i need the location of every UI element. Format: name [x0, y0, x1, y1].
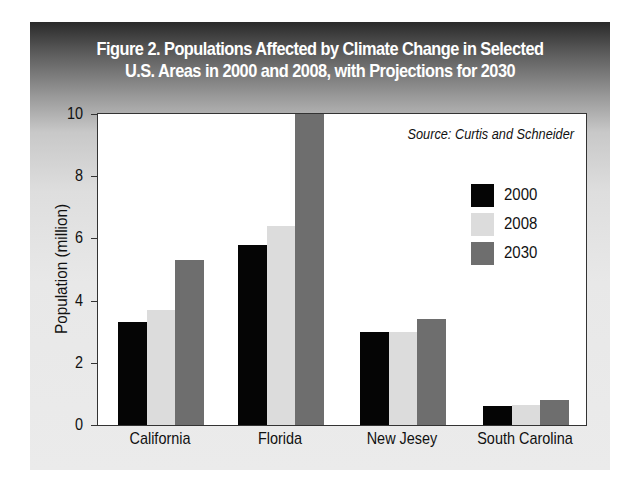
- bar-new-jesey-2000: [360, 332, 389, 425]
- x-label-south-carolina: South Carolina: [477, 429, 573, 449]
- bar-california-2008: [147, 310, 176, 425]
- y-tick-2: 2: [91, 363, 97, 364]
- x-label-new-jersey: New Jesey: [367, 429, 438, 449]
- y-axis-title: Population (million): [52, 204, 72, 334]
- bar-florida-2008: [267, 226, 296, 425]
- y-tick-6: 6: [91, 238, 97, 239]
- y-tick-8: 8: [91, 176, 97, 177]
- legend-label-2000: 2000: [504, 185, 537, 205]
- source-note: Source: Curtis and Schneider: [391, 125, 574, 142]
- bar-new-jesey-2030: [417, 319, 446, 425]
- y-tick-label: 2: [58, 353, 84, 373]
- y-tick-label: 4: [58, 291, 84, 311]
- bar-south-carolina-2008: [512, 405, 541, 425]
- title-line-2: U.S. Areas in 2000 and 2008, with Projec…: [71, 60, 570, 82]
- x-label-california: California: [129, 429, 190, 449]
- legend-label-2008: 2008: [504, 214, 537, 234]
- legend-label-2030: 2030: [504, 243, 537, 263]
- y-tick-10: 10: [91, 114, 97, 115]
- chart-title: Figure 2. Populations Affected by Climat…: [71, 38, 570, 82]
- y-tick-label: 10: [58, 104, 84, 124]
- y-tick-label: 8: [58, 166, 84, 186]
- bar-south-carolina-2000: [483, 406, 512, 425]
- bar-new-jesey-2008: [389, 332, 418, 425]
- bar-florida-2000: [238, 245, 267, 425]
- y-tick-4: 4: [91, 301, 97, 302]
- y-tick-0: 0: [91, 425, 97, 426]
- x-label-florida: Florida: [258, 429, 302, 449]
- plot-area: 0 2 4 6 8 10 Source: Curtis and Schneide…: [97, 113, 587, 426]
- title-line-1: Figure 2. Populations Affected by Climat…: [71, 38, 570, 60]
- bar-south-carolina-2030: [540, 400, 569, 425]
- y-tick-label: 0: [58, 415, 84, 435]
- bar-california-2030: [175, 260, 204, 425]
- legend-swatch-2000: [471, 184, 494, 207]
- bar-california-2000: [118, 322, 147, 425]
- legend-swatch-2030: [471, 242, 494, 265]
- bar-florida-2030: [295, 114, 324, 425]
- y-tick-label: 6: [58, 228, 84, 248]
- legend-swatch-2008: [471, 213, 494, 236]
